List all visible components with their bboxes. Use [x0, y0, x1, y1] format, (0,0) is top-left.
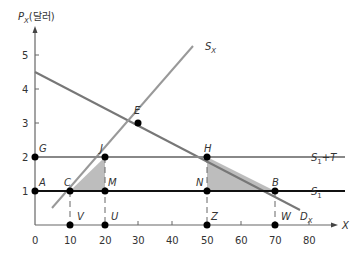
x-tick-80: 80: [303, 235, 316, 246]
data-points: [32, 120, 279, 229]
point-label-j: J: [98, 143, 103, 154]
economics-diagram: PX(달러) 5 4 3 2 1 0 10 20 30 40 50 60 70 …: [0, 0, 364, 256]
supply-curve-sx: [52, 46, 193, 208]
label-s1-plus-t: S1+T: [311, 152, 337, 166]
shaded-region-nhb: [207, 157, 275, 191]
shaded-region-cjm: [70, 157, 105, 191]
y-tick-5: 5: [22, 50, 28, 61]
y-axis-arrow-icon: [33, 26, 38, 33]
label-s1: S1: [311, 186, 322, 200]
point-label-e: E: [134, 105, 141, 116]
x-axis-title: X: [341, 220, 350, 231]
point-label-z: Z: [210, 211, 219, 222]
point-label-m: M: [108, 177, 117, 188]
point-label-a: A: [38, 177, 46, 188]
y-axis-title: PX(달러): [18, 11, 55, 25]
y-tick-4: 4: [22, 84, 28, 95]
y-tick-2: 2: [22, 152, 28, 163]
x-tick-10: 10: [64, 235, 77, 246]
label-sx: SX: [205, 41, 216, 55]
point-label-v: V: [77, 211, 85, 222]
point-label-w: W: [281, 211, 292, 222]
point-label-b: B: [272, 177, 279, 188]
point-label-n: N: [196, 177, 204, 188]
y-tick-1: 1: [22, 186, 28, 197]
x-tick-20: 20: [99, 235, 112, 246]
x-tick-40: 40: [166, 235, 179, 246]
point-label-h: H: [204, 143, 212, 154]
x-tick-30: 30: [132, 235, 145, 246]
x-axis-arrow-icon: [331, 223, 338, 228]
label-dx: DX: [300, 211, 313, 225]
y-tick-3: 3: [22, 118, 28, 129]
point-label-u: U: [111, 211, 119, 222]
x-tick-60: 60: [235, 235, 248, 246]
x-tick-0: 0: [32, 235, 38, 246]
x-tick-70: 70: [269, 235, 282, 246]
point-label-c: C: [64, 177, 71, 188]
point-label-g: G: [39, 143, 47, 154]
x-tick-50: 50: [201, 235, 214, 246]
